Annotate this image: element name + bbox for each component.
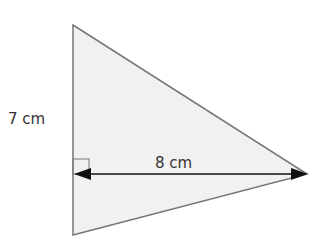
height-label: 7 cm bbox=[8, 110, 45, 128]
diagram-canvas: 7 cm 8 cm bbox=[0, 0, 321, 247]
triangle-shape bbox=[73, 25, 307, 235]
base-label: 8 cm bbox=[155, 154, 192, 172]
triangle-diagram: 7 cm 8 cm bbox=[0, 0, 321, 247]
